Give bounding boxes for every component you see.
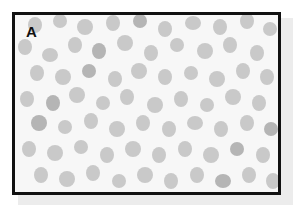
red-blood-cell bbox=[215, 174, 231, 188]
red-blood-cell bbox=[74, 140, 88, 154]
red-blood-cell bbox=[137, 167, 153, 183]
red-blood-cell bbox=[133, 15, 147, 28]
red-blood-cell bbox=[260, 69, 274, 85]
red-blood-cell bbox=[100, 147, 114, 163]
red-blood-cell bbox=[200, 98, 214, 112]
red-blood-cell bbox=[68, 37, 82, 53]
red-blood-cell bbox=[55, 69, 71, 85]
micrograph-panel: A bbox=[12, 12, 281, 195]
red-blood-cell bbox=[22, 141, 36, 157]
red-blood-cell bbox=[53, 15, 67, 28]
red-blood-cell bbox=[86, 165, 100, 181]
red-blood-cell bbox=[31, 115, 47, 131]
red-blood-cell bbox=[84, 113, 98, 129]
red-blood-cell bbox=[187, 116, 203, 130]
red-blood-cell bbox=[120, 89, 134, 105]
red-blood-cell bbox=[170, 38, 184, 52]
red-blood-cell bbox=[58, 120, 72, 134]
red-blood-cell bbox=[240, 15, 254, 29]
red-blood-cell bbox=[20, 91, 34, 107]
red-blood-cell bbox=[112, 174, 126, 188]
red-blood-cell bbox=[197, 43, 213, 59]
red-blood-cell bbox=[131, 63, 147, 79]
red-blood-cell bbox=[203, 147, 219, 163]
blood-cells-image bbox=[15, 15, 278, 192]
red-blood-cell bbox=[185, 16, 201, 30]
red-blood-cell bbox=[214, 121, 228, 137]
red-blood-cell bbox=[18, 39, 32, 55]
red-blood-cell bbox=[256, 147, 270, 163]
red-blood-cell bbox=[117, 35, 133, 51]
red-blood-cell bbox=[144, 45, 158, 61]
red-blood-cell bbox=[213, 19, 227, 35]
red-blood-cell bbox=[252, 95, 266, 111]
red-blood-cell bbox=[152, 147, 166, 163]
red-blood-cell bbox=[69, 87, 85, 103]
panel-label: A bbox=[26, 23, 37, 40]
red-blood-cell bbox=[59, 171, 75, 187]
red-blood-cell bbox=[158, 69, 172, 85]
red-blood-cell bbox=[164, 173, 178, 189]
red-blood-cell bbox=[266, 173, 278, 189]
red-blood-cell bbox=[106, 15, 120, 31]
red-blood-cell bbox=[223, 37, 237, 53]
red-blood-cell bbox=[30, 65, 44, 81]
red-blood-cell bbox=[34, 167, 48, 183]
red-blood-cell bbox=[264, 122, 278, 136]
red-blood-cell bbox=[263, 22, 277, 36]
red-blood-cell bbox=[209, 71, 225, 87]
red-blood-cell bbox=[158, 21, 172, 37]
red-blood-cell bbox=[47, 145, 63, 161]
red-blood-cell bbox=[250, 45, 264, 61]
red-blood-cell bbox=[96, 96, 110, 110]
red-blood-cell bbox=[109, 121, 125, 137]
red-blood-cell bbox=[230, 142, 244, 156]
red-blood-cell bbox=[92, 43, 106, 59]
red-blood-cell bbox=[174, 91, 188, 107]
red-blood-cell bbox=[242, 167, 256, 183]
red-blood-cell bbox=[77, 19, 93, 35]
red-blood-cell bbox=[190, 167, 204, 183]
red-blood-cell bbox=[136, 115, 150, 131]
red-blood-cell bbox=[236, 63, 250, 79]
red-blood-cell bbox=[147, 97, 163, 113]
red-blood-cell bbox=[125, 141, 141, 157]
red-blood-cell bbox=[82, 64, 96, 78]
red-blood-cell bbox=[46, 95, 60, 111]
red-blood-cell bbox=[184, 66, 198, 80]
red-blood-cell bbox=[42, 48, 58, 62]
red-blood-cell bbox=[240, 115, 254, 131]
red-blood-cell bbox=[225, 89, 241, 105]
red-blood-cell bbox=[162, 121, 176, 137]
red-blood-cell bbox=[108, 71, 122, 87]
red-blood-cell bbox=[178, 141, 192, 157]
